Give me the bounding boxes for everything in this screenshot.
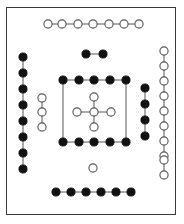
node-left-inner-open-column-1 xyxy=(38,108,46,116)
node-top-open-chain-4 xyxy=(105,20,113,28)
node-right-open-column-3 xyxy=(160,92,168,100)
node-bottom-filled-chain-1 xyxy=(67,188,75,196)
node-center-box-top-row-4 xyxy=(122,76,130,84)
node-right-inner-filled-column-1 xyxy=(141,100,149,108)
node-bottom-filled-chain-3 xyxy=(97,188,105,196)
node-upper-filled-pair-1 xyxy=(99,50,107,58)
node-right-inner-filled-column-2 xyxy=(141,116,149,124)
node-center-box-bottom-row-3 xyxy=(106,138,114,146)
node-center-box-top-row-2 xyxy=(90,76,98,84)
node-right-open-column-0 xyxy=(160,47,168,55)
node-center-box-bottom-row-4 xyxy=(122,138,130,146)
figure-root xyxy=(0,0,184,224)
node-left-filled-column-0 xyxy=(19,53,27,61)
node-right-inner-filled-column-3 xyxy=(141,132,149,140)
node-lower-single-open-node-0 xyxy=(89,164,97,172)
node-diagram-canvas xyxy=(0,0,184,224)
node-center-box-bottom-row-2 xyxy=(90,138,98,146)
node-top-open-chain-0 xyxy=(44,20,52,28)
node-left-filled-column-4 xyxy=(19,117,27,125)
node-bottom-filled-chain-5 xyxy=(127,188,135,196)
node-center-open-cross-3 xyxy=(107,108,115,116)
node-right-open-column-4 xyxy=(160,107,168,115)
node-center-open-cross-2 xyxy=(90,108,98,116)
node-left-filled-column-1 xyxy=(19,69,27,77)
node-center-open-cross-0 xyxy=(90,93,98,101)
node-center-box-top-row-1 xyxy=(75,76,83,84)
node-right-open-column-8 xyxy=(160,156,168,164)
node-left-inner-open-column-2 xyxy=(38,123,46,131)
node-right-open-column-5 xyxy=(160,122,168,130)
node-left-filled-column-5 xyxy=(19,133,27,141)
node-left-filled-column-7 xyxy=(19,165,27,173)
node-right-open-column-2 xyxy=(160,77,168,85)
node-top-open-chain-3 xyxy=(89,20,97,28)
node-center-box-top-row-3 xyxy=(106,76,114,84)
node-left-filled-column-3 xyxy=(19,101,27,109)
node-bottom-filled-chain-2 xyxy=(82,188,90,196)
node-top-open-chain-5 xyxy=(120,20,128,28)
node-left-filled-column-2 xyxy=(19,85,27,93)
node-top-open-chain-6 xyxy=(135,20,143,28)
node-center-open-cross-4 xyxy=(90,123,98,131)
node-center-open-cross-1 xyxy=(73,108,81,116)
node-right-open-column-6 xyxy=(160,137,168,145)
node-right-inner-filled-column-0 xyxy=(141,84,149,92)
node-center-box-bottom-row-0 xyxy=(59,138,67,146)
node-top-open-chain-2 xyxy=(74,20,82,28)
node-bottom-filled-chain-4 xyxy=(112,188,120,196)
node-right-open-column-9 xyxy=(160,171,168,179)
node-right-open-column-1 xyxy=(160,62,168,70)
node-upper-filled-pair-0 xyxy=(82,50,90,58)
node-bottom-filled-chain-0 xyxy=(52,188,60,196)
node-center-box-bottom-row-1 xyxy=(75,138,83,146)
node-center-box-top-row-0 xyxy=(59,76,67,84)
node-left-filled-column-6 xyxy=(19,149,27,157)
node-left-inner-open-column-0 xyxy=(38,94,46,102)
node-top-open-chain-1 xyxy=(58,20,66,28)
